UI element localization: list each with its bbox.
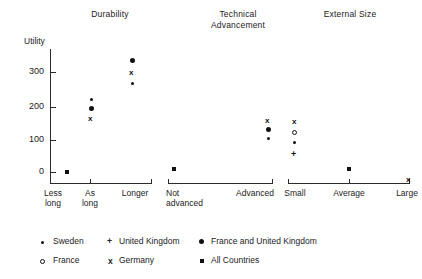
panel3-category-average: Average [327,188,371,198]
point-durability-as-long-france-and-uk [89,106,94,111]
legend-symbol-sweden [41,241,44,244]
figure-scatter-utility: Durability Technical Advancement Externa… [0,0,422,279]
panel2-category-not-advanced: Not advanced [166,188,218,208]
panel3-category-large: Large [390,188,422,198]
panel1-x-axis-cap-left [50,179,51,183]
y-tick-label-0: 0 [18,166,44,176]
legend-label-all-countries: All Countries [211,255,259,265]
point-durability-longer-france-and-uk [130,58,135,63]
legend-symbol-france-and-united-kingdom [199,239,204,244]
legend-label-france: France [53,255,79,265]
panel3-x-axis-line [288,183,410,184]
panel2-category-not-advanced-line1: Not [166,188,218,198]
point-durability-longer-germany: x [129,69,133,77]
point-durability-as-long-sweden [90,98,93,101]
panel-title-technical-advancement-line2: Advancement [190,20,286,31]
y-tick-mark-0 [51,172,56,173]
y-tick-mark-200 [51,107,56,108]
legend-symbol-france [40,259,45,264]
point-durability-less-long-all-countries [65,170,69,174]
panel1-x-axis-cap-right [151,179,152,183]
panel-title-technical-advancement-line1: Technical [190,9,286,20]
y-tick-label-200: 200 [18,101,44,111]
point-size-small-sweden [293,141,296,144]
point-size-small-france [292,130,297,135]
point-technical-advanced-france-and-uk [266,127,271,132]
panel1-x-axis-line [50,183,152,184]
point-technical-advanced-sweden [267,137,270,140]
panel-title-technical-advancement: Technical Advancement [190,9,286,31]
point-durability-as-long-germany: x [88,115,92,123]
legend: Sweden + United Kingdom France and Unite… [0,228,422,276]
point-technical-not-advanced-all-countries [172,167,176,171]
panel-title-external-size: External Size [300,9,400,19]
panel1-category-less-long-line2: long [36,198,70,208]
legend-label-france-and-united-kingdom: France and United Kingdom [211,236,317,246]
point-size-small-germany: x [292,118,296,126]
panel1-category-less-long: Less long [36,188,70,208]
point-technical-advanced-germany: x [265,117,269,125]
panel2-x-axis-cap-right [272,179,273,183]
point-size-large-germany: x [406,176,410,184]
legend-symbol-germany: x [108,257,113,265]
panel1-category-as-long-line1: As [75,188,105,198]
y-tick-label-300: 300 [18,66,44,76]
panel2-category-not-advanced-line2: advanced [166,198,218,208]
y-tick-mark-300 [51,72,56,73]
panel3-category-small: Small [278,188,312,198]
panel1-category-as-long-line2: long [75,198,105,208]
legend-label-united-kingdom: United Kingdom [119,236,179,246]
panel2-x-axis-line [168,183,273,184]
y-axis-label: Utility [24,36,45,46]
y-tick-mark-100 [51,140,56,141]
y-axis-line [50,49,51,183]
panel3-x-tick-average [349,179,350,183]
legend-label-sweden: Sweden [53,236,84,246]
panel1-category-longer: Longer [114,188,156,198]
panel3-x-axis-cap-left [288,179,289,183]
panel2-category-advanced: Advanced [233,188,277,198]
legend-symbol-all-countries [200,259,204,263]
legend-symbol-united-kingdom: + [107,237,112,245]
point-size-average-all-countries [347,167,351,171]
point-size-small-united-kingdom: + [291,150,296,158]
panel1-category-less-long-line1: Less [36,188,70,198]
point-durability-longer-sweden [131,82,134,85]
panel2-x-axis-cap-left [168,179,169,183]
panel-title-durability: Durability [60,9,160,19]
legend-label-germany: Germany [119,255,154,265]
y-tick-label-100: 100 [18,134,44,144]
panel1-category-as-long: As long [75,188,105,208]
panel1-x-tick-as-long [90,179,91,183]
